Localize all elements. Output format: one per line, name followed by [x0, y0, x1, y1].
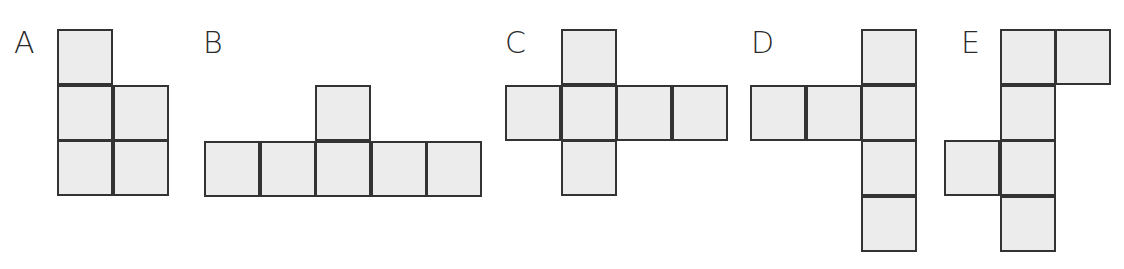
net-face: [505, 85, 561, 141]
cube-nets-figure: A B C D E: [0, 0, 1124, 269]
net-face: [57, 85, 113, 141]
net-face: [616, 85, 672, 141]
net-face: [260, 141, 316, 197]
net-face: [861, 196, 917, 252]
net-face: [561, 85, 617, 141]
net-face: [426, 141, 482, 197]
net-face: [861, 85, 917, 141]
net-face: [672, 85, 728, 141]
net-face: [750, 85, 806, 141]
net-label-d: D: [751, 28, 774, 58]
net-face: [204, 141, 260, 197]
net-face: [1000, 29, 1056, 85]
net-face: [561, 140, 617, 196]
net-label-e: E: [961, 28, 980, 58]
net-face: [57, 29, 113, 85]
net-face: [1000, 196, 1056, 252]
net-face: [57, 140, 113, 196]
net-face: [861, 29, 917, 85]
net-face: [113, 85, 169, 141]
net-face: [861, 140, 917, 196]
net-label-a: A: [14, 28, 35, 58]
net-face: [806, 85, 862, 141]
net-face: [1000, 85, 1056, 141]
net-face: [315, 141, 371, 197]
net-face: [1055, 29, 1111, 85]
net-face: [113, 140, 169, 196]
net-face: [561, 29, 617, 85]
net-label-c: C: [505, 28, 526, 58]
net-face: [315, 85, 371, 141]
net-face: [944, 140, 1000, 196]
net-face: [1000, 140, 1056, 196]
net-face: [371, 141, 427, 197]
net-label-b: B: [203, 28, 223, 58]
